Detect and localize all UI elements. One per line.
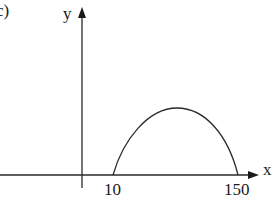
part-label: c) [0,2,9,19]
x-axis-arrow-icon [248,171,259,179]
plot-canvas [0,0,275,201]
x-tick-label-150: 150 [224,181,250,198]
figure: c) y x 10 150 [0,0,275,201]
y-axis-label: y [63,5,72,22]
x-axis-label: x [263,161,272,178]
parabola-curve [113,108,238,175]
y-axis-arrow-icon [78,7,86,18]
x-tick-label-10: 10 [104,181,121,198]
